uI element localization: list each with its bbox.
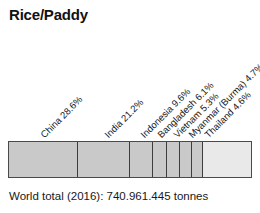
bar-segment-myanmar: [180, 142, 191, 177]
category-labels-layer: China 28.6% India 21.2% Indonesia 9.6% B…: [0, 0, 260, 140]
bar-segment-rest: [203, 142, 251, 177]
bar-segment-vietnam: [167, 142, 180, 177]
stacked-bar: [8, 141, 252, 178]
bar-segment-india: [78, 142, 129, 177]
bar-segment-bangladesh: [153, 142, 168, 177]
bar-segment-indonesia: [130, 142, 153, 177]
bar-segment-china: [9, 142, 78, 177]
stacked-bar-chart: Rice/Paddy China 28.6% India 21.2% Indon…: [0, 0, 260, 213]
bar-segment-thailand: [192, 142, 203, 177]
category-label-china: China 28.6%: [39, 94, 85, 140]
world-total-caption: World total (2016): 740.961.445 tonnes: [9, 189, 208, 204]
